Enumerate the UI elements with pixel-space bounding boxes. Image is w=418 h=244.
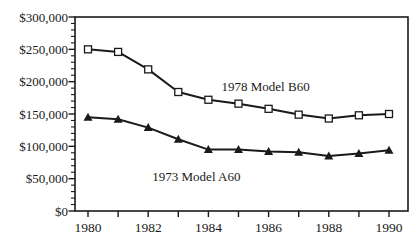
x-axis-label: 1980: [75, 220, 102, 235]
x-axis-label: 1986: [255, 220, 282, 235]
data-point-1978-model-b60: [175, 89, 182, 96]
data-point-1978-model-b60: [295, 111, 302, 118]
series-label-1973-model-a60: 1973 Model A60: [152, 169, 240, 184]
x-axis-label: 1982: [135, 220, 162, 235]
y-axis-label: $0: [55, 204, 68, 219]
y-axis-label: $50,000: [26, 171, 68, 186]
resale-value-line-chart: $0$50,000$100,000$150,000$200,000$250,00…: [0, 0, 418, 244]
x-axis-label: 1990: [376, 220, 403, 235]
data-point-1978-model-b60: [205, 96, 212, 103]
data-point-1978-model-b60: [325, 115, 332, 122]
chart-container: Beech Duke Resale Value $0$50,000$100,00…: [0, 0, 418, 244]
data-point-1978-model-b60: [355, 112, 362, 119]
x-axis-label: 1984: [195, 220, 222, 235]
y-axis-label: $250,000: [19, 42, 68, 57]
data-point-1978-model-b60: [115, 48, 122, 55]
data-point-1978-model-b60: [85, 46, 92, 53]
x-axis-label: 1988: [315, 220, 342, 235]
y-axis-label: $150,000: [19, 107, 68, 122]
y-axis-label: $200,000: [19, 74, 68, 89]
data-point-1978-model-b60: [235, 100, 242, 107]
data-point-1978-model-b60: [145, 66, 152, 73]
y-axis-label: $300,000: [19, 10, 68, 25]
y-axis-label: $100,000: [19, 139, 68, 154]
data-point-1978-model-b60: [386, 111, 393, 118]
chart-plot-area: $0$50,000$100,000$150,000$200,000$250,00…: [0, 0, 418, 244]
series-label-1978-model-b60: 1978 Model B60: [222, 79, 310, 94]
data-point-1978-model-b60: [265, 105, 272, 112]
